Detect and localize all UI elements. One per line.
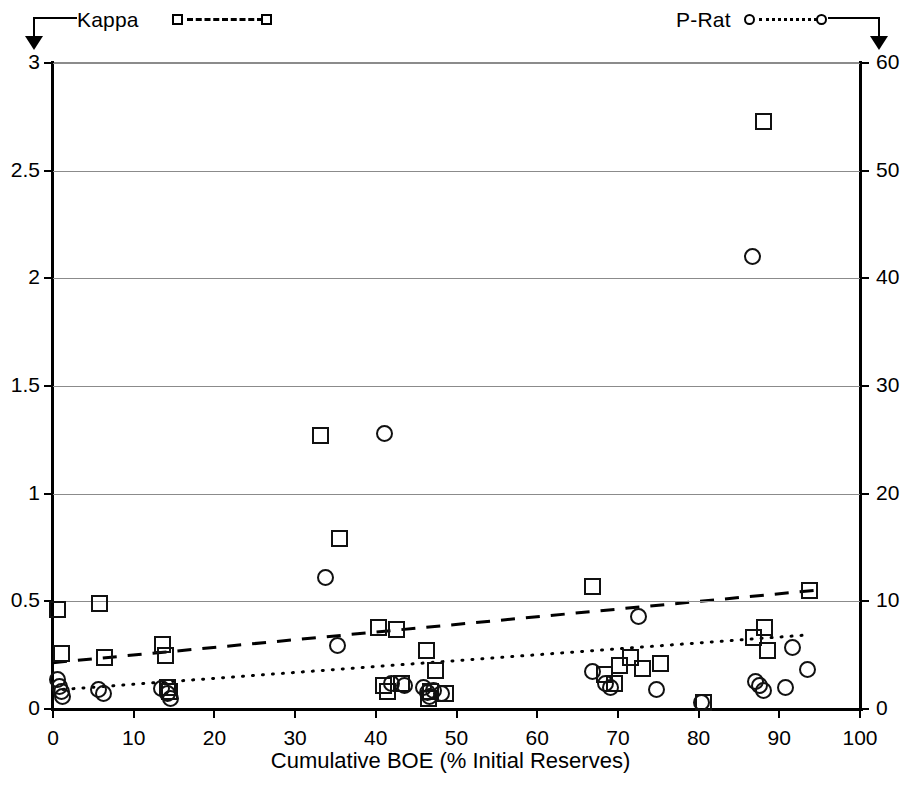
x-tick bbox=[294, 709, 296, 718]
y-tick-right bbox=[860, 708, 869, 710]
x-tick-label: 90 bbox=[749, 726, 809, 750]
data-point-prat bbox=[630, 608, 647, 625]
x-tick bbox=[617, 709, 619, 718]
y-tick-left bbox=[44, 277, 53, 279]
chart-root: Kappa P-Rat 00.511.522.53010203040506001… bbox=[0, 0, 901, 789]
data-point-kappa bbox=[331, 530, 348, 547]
data-point-kappa bbox=[157, 647, 174, 664]
y-tick-right bbox=[860, 493, 869, 495]
data-point-kappa bbox=[652, 655, 669, 672]
data-point-kappa bbox=[611, 657, 628, 674]
x-tick-label: 50 bbox=[427, 726, 487, 750]
legend-prat-marker-left bbox=[744, 14, 755, 25]
y-tick-label-right: 30 bbox=[876, 373, 901, 397]
data-point-kappa bbox=[418, 642, 435, 659]
data-point-prat bbox=[755, 682, 772, 699]
legend-prat-arrow-icon bbox=[870, 36, 888, 50]
legend-kappa-dash-sample bbox=[187, 18, 263, 21]
legend-prat-dot-sample bbox=[759, 18, 817, 21]
y-tick-label-left: 0 bbox=[0, 696, 40, 720]
data-point-kappa bbox=[634, 660, 651, 677]
data-point-prat bbox=[602, 679, 619, 696]
data-point-kappa bbox=[801, 582, 818, 599]
x-tick-label: 100 bbox=[830, 726, 890, 750]
y-tick-right bbox=[860, 277, 869, 279]
x-tick-label: 70 bbox=[588, 726, 648, 750]
data-point-prat bbox=[799, 661, 816, 678]
gridline-horizontal bbox=[53, 63, 860, 64]
data-point-kappa bbox=[91, 595, 108, 612]
x-tick bbox=[859, 709, 861, 718]
x-tick bbox=[213, 709, 215, 718]
y-tick-label-right: 50 bbox=[876, 158, 901, 182]
data-point-prat bbox=[162, 690, 179, 707]
x-tick-label: 20 bbox=[184, 726, 244, 750]
x-tick-label: 0 bbox=[23, 726, 83, 750]
y-tick-label-right: 20 bbox=[876, 481, 901, 505]
data-point-prat bbox=[396, 677, 413, 694]
y-tick-label-right: 40 bbox=[876, 265, 901, 289]
x-tick-label: 80 bbox=[669, 726, 729, 750]
data-point-kappa bbox=[756, 619, 773, 636]
y-tick-label-left: 1.5 bbox=[0, 373, 40, 397]
x-tick-label: 40 bbox=[346, 726, 406, 750]
x-tick bbox=[456, 709, 458, 718]
data-point-kappa bbox=[49, 601, 66, 618]
chart-legend: Kappa P-Rat bbox=[0, 0, 901, 58]
y-tick-left bbox=[44, 385, 53, 387]
y-tick-label-right: 0 bbox=[876, 696, 901, 720]
gridline-horizontal bbox=[53, 278, 860, 279]
y-tick-label-left: 2.5 bbox=[0, 158, 40, 182]
plot-area: 00.511.522.53010203040506001020304050607… bbox=[53, 63, 860, 709]
y-tick-left bbox=[44, 62, 53, 64]
legend-kappa-marker-left bbox=[172, 14, 183, 25]
x-tick-label: 60 bbox=[507, 726, 567, 750]
y-tick-label-right: 60 bbox=[876, 50, 901, 74]
data-point-kappa bbox=[759, 642, 776, 659]
data-point-kappa bbox=[312, 427, 329, 444]
data-point-kappa bbox=[427, 662, 444, 679]
gridline-horizontal bbox=[53, 601, 860, 602]
x-tick bbox=[375, 709, 377, 718]
data-point-kappa bbox=[370, 619, 387, 636]
legend-kappa-arrow-icon bbox=[25, 36, 43, 50]
x-tick-label: 10 bbox=[104, 726, 164, 750]
data-point-kappa bbox=[96, 649, 113, 666]
y-tick-right bbox=[860, 170, 869, 172]
legend-label-prat: P-Rat bbox=[676, 8, 731, 32]
x-tick bbox=[778, 709, 780, 718]
x-tick bbox=[133, 709, 135, 718]
data-point-prat bbox=[54, 688, 71, 705]
gridline-horizontal bbox=[53, 386, 860, 387]
data-point-prat bbox=[376, 425, 393, 442]
y-tick-label-left: 0.5 bbox=[0, 588, 40, 612]
legend-label-kappa: Kappa bbox=[77, 8, 139, 32]
y-tick-right bbox=[860, 62, 869, 64]
y-tick-right bbox=[860, 385, 869, 387]
data-point-kappa bbox=[388, 621, 405, 638]
y-tick-label-right: 10 bbox=[876, 588, 901, 612]
y-tick-label-left: 1 bbox=[0, 481, 40, 505]
x-tick-label: 30 bbox=[265, 726, 325, 750]
y-tick-label-left: 2 bbox=[0, 265, 40, 289]
legend-kappa-marker-right bbox=[261, 14, 272, 25]
data-point-prat bbox=[95, 685, 112, 702]
data-point-kappa bbox=[53, 645, 70, 662]
legend-prat-marker-right bbox=[816, 14, 827, 25]
x-tick bbox=[52, 709, 54, 718]
x-tick bbox=[536, 709, 538, 718]
data-point-kappa bbox=[584, 578, 601, 595]
legend-kappa-connector-h bbox=[33, 17, 77, 19]
y-tick-right bbox=[860, 600, 869, 602]
y-tick-left bbox=[44, 170, 53, 172]
data-point-prat bbox=[784, 639, 801, 656]
gridline-horizontal bbox=[53, 494, 860, 495]
legend-prat-connector-h bbox=[828, 17, 880, 19]
gridline-horizontal bbox=[53, 171, 860, 172]
y-tick-left bbox=[44, 493, 53, 495]
x-axis-title: Cumulative BOE (% Initial Reserves) bbox=[0, 748, 901, 774]
data-point-kappa bbox=[755, 113, 772, 130]
y-tick-label-left: 3 bbox=[0, 50, 40, 74]
